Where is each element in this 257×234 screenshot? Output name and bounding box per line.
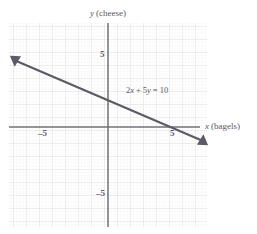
graph-figure: y(cheese) x(bagels) 5 –5 –5 5 2x+5y=10 (0, 0, 257, 234)
equation-annotation: 2x+5y=10 (126, 86, 168, 95)
x-axis-label: x(bagels) (205, 122, 240, 131)
equation-equals: = (153, 85, 158, 95)
x-tick-label-negative-5: –5 (38, 129, 47, 138)
coordinate-plane-svg (0, 0, 257, 234)
y-axis-variable: y (90, 8, 94, 18)
x-tick-label-positive-5: 5 (170, 129, 175, 138)
x-axis-variable: x (205, 121, 209, 131)
y-tick-label-positive-5: 5 (100, 50, 105, 59)
equation-plus: + (136, 85, 141, 95)
y-axis-label: y(cheese) (90, 9, 126, 18)
y-tick-label-negative-5: –5 (96, 189, 105, 198)
equation-var-x: x (130, 85, 134, 95)
x-axis-context: (bagels) (211, 121, 240, 131)
y-axis-context: (cheese) (96, 8, 126, 18)
equation-var-y: y (147, 85, 151, 95)
equation-rhs: 10 (160, 85, 169, 95)
